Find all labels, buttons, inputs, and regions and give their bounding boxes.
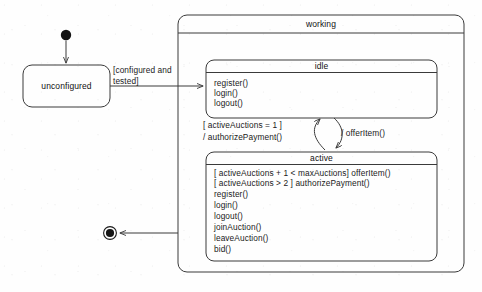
state-label-unconfigured: unconfigured [23,81,110,92]
active-operation-login: login() [214,200,238,211]
transition-label-active-to-idle-line2: / authorizePayment() [203,132,282,143]
idle-operation-logout: logout() [214,98,243,109]
active-operation-offeritem-guard: [ activeAuctions + 1 < maxAuctions] offe… [214,168,391,179]
active-operation-authorizepayment-guard: [ activeAuctions > 2 ] authorizePayment(… [214,178,370,189]
transition-label-configured-line1: [configured and [113,65,172,76]
active-operation-leaveauction: leaveAuction() [214,233,268,244]
transition-label-idle-to-active: / offerItem() [341,128,385,139]
final-state-dot [106,229,114,237]
transition-label-active-to-idle-line1: [ activeAuctions = 1 ] [203,120,282,131]
state-label-active: active [206,153,437,164]
state-label-idle: idle [206,61,437,72]
active-operation-bid: bid() [214,244,231,255]
transition-active-to-idle [314,119,325,150]
idle-operation-register: register() [214,78,248,89]
uml-state-diagram: unconfigured working idle active registe… [0,0,482,292]
active-operation-register: register() [214,189,248,200]
active-operation-logout: logout() [214,211,243,222]
initial-pseudostate-icon [61,30,71,40]
state-label-working: working [178,19,464,30]
transition-label-configured-line2: tested] [113,76,139,87]
idle-operation-login: login() [214,88,238,99]
diagram-canvas [0,0,482,292]
active-operation-joinauction: joinAuction() [214,222,261,233]
